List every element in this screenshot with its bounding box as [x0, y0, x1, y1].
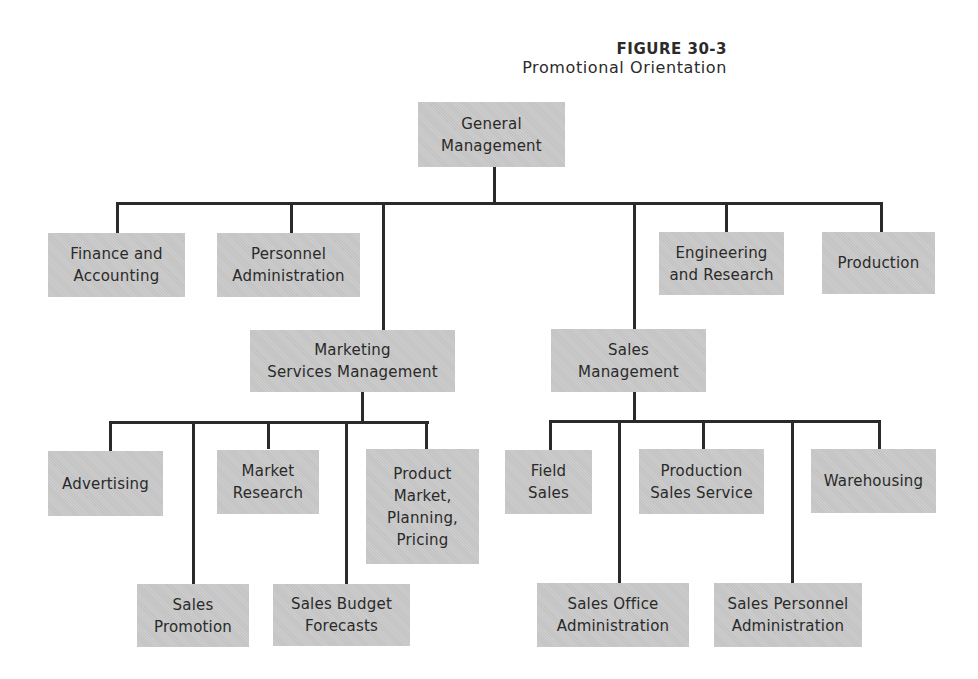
node-label: Advertising	[62, 473, 149, 495]
node-product-market-planning-pricing: Product Market, Planning, Pricing	[366, 449, 479, 564]
node-sales-promotion: Sales Promotion	[137, 584, 249, 647]
connector-line	[192, 421, 195, 584]
node-label: Sales Budget Forecasts	[291, 593, 392, 637]
figure-title: Promotional Orientation	[522, 58, 727, 77]
node-general-management: General Management	[418, 102, 565, 167]
connector-line	[702, 420, 705, 449]
connector-line	[725, 202, 728, 232]
connector-line	[290, 202, 293, 234]
node-sales-personnel-administration: Sales Personnel Administration	[714, 583, 862, 647]
connector-line	[345, 421, 348, 584]
node-label: Marketing Services Management	[267, 339, 438, 383]
node-label: Sales Office Administration	[557, 593, 670, 637]
connector-line	[549, 420, 552, 450]
node-sales-office-administration: Sales Office Administration	[537, 583, 689, 647]
connector-line	[878, 420, 881, 449]
connector-line	[633, 392, 636, 422]
node-advertising: Advertising	[48, 451, 163, 516]
connector-line	[791, 420, 794, 583]
node-label: Warehousing	[824, 470, 924, 492]
connector-line	[425, 421, 428, 449]
connector-line	[109, 421, 112, 451]
node-label: Production Sales Service	[650, 460, 753, 504]
connector-line	[618, 420, 621, 583]
connector-line	[880, 202, 883, 232]
node-production: Production	[822, 232, 935, 294]
node-sales-management: Sales Management	[551, 329, 706, 392]
node-engineering-research: Engineering and Research	[659, 232, 784, 295]
connector-line	[267, 421, 270, 449]
node-label: Sales Promotion	[154, 594, 232, 638]
node-label: Sales Management	[578, 339, 679, 383]
node-label: Market Research	[233, 460, 303, 504]
node-marketing-services-management: Marketing Services Management	[250, 330, 455, 392]
node-label: Finance and Accounting	[70, 243, 163, 287]
node-personnel-administration: Personnel Administration	[217, 233, 360, 297]
node-label: Personnel Administration	[232, 243, 345, 287]
node-label: Engineering and Research	[669, 242, 773, 286]
node-label: General Management	[441, 113, 542, 157]
connector-line	[116, 202, 119, 234]
figure-number: FIGURE 30-3	[617, 40, 727, 58]
connector-line	[493, 167, 496, 205]
connector-line	[361, 392, 364, 423]
node-sales-budget-forecasts: Sales Budget Forecasts	[273, 584, 410, 646]
node-warehousing: Warehousing	[811, 449, 936, 513]
node-label: Product Market, Planning, Pricing	[387, 463, 458, 551]
node-production-sales-service: Production Sales Service	[639, 449, 764, 514]
node-field-sales: Field Sales	[505, 450, 592, 514]
connector-line	[549, 420, 881, 423]
connector-line	[116, 202, 883, 205]
connector-line	[382, 202, 385, 330]
node-finance-accounting: Finance and Accounting	[48, 233, 185, 297]
node-label: Production	[838, 252, 920, 274]
node-label: Field Sales	[528, 460, 569, 504]
connector-line	[633, 202, 636, 330]
node-market-research: Market Research	[217, 450, 319, 514]
node-label: Sales Personnel Administration	[727, 593, 848, 637]
